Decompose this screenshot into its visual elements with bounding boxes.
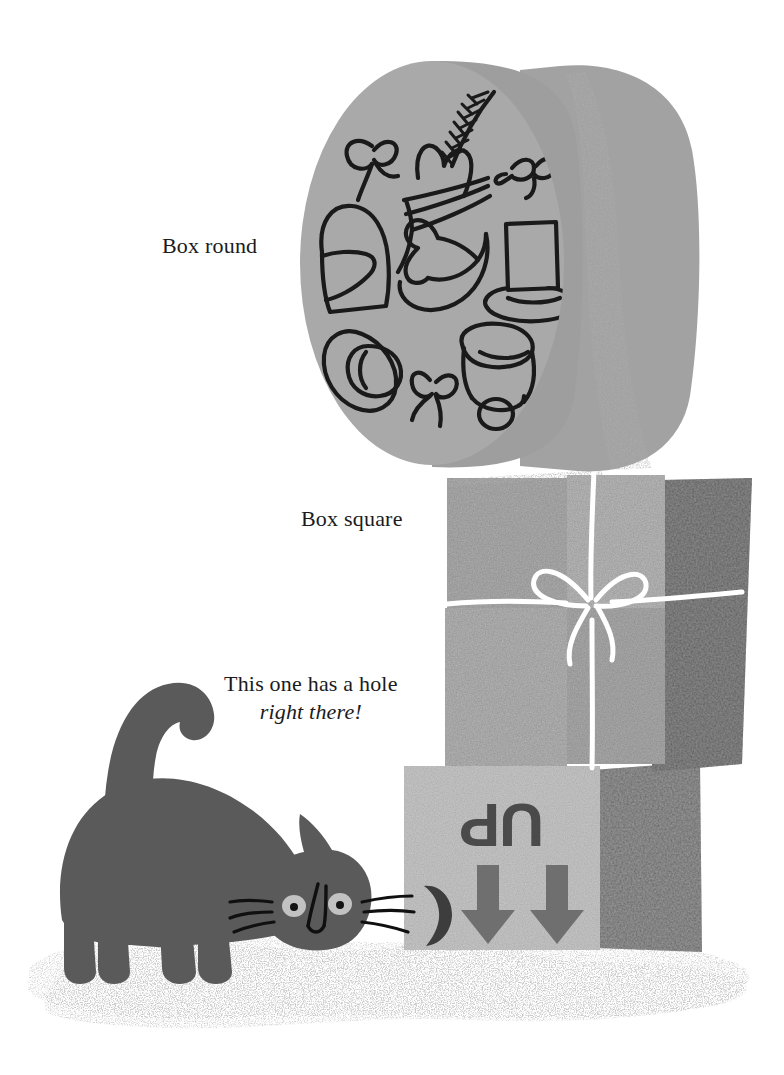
caption-hole-line2: right there! xyxy=(224,698,398,726)
caption-box-round: Box round xyxy=(162,232,257,260)
cat-eye xyxy=(282,895,306,917)
square-box-side xyxy=(652,478,752,772)
up-label: UP xyxy=(460,791,544,860)
square-box xyxy=(445,470,752,772)
round-box xyxy=(300,61,699,471)
round-box-lid xyxy=(300,61,564,465)
cat-leg xyxy=(98,914,130,984)
square-box-front xyxy=(445,475,665,766)
caption-hole: This one has a hole right there! xyxy=(224,670,398,726)
cat-leg xyxy=(160,928,196,984)
caption-hole-line1: This one has a hole xyxy=(224,671,398,696)
illustration-canvas: UP xyxy=(0,0,784,1075)
cat-eye xyxy=(328,893,352,915)
up-box-side xyxy=(592,762,702,952)
cat-leg xyxy=(64,910,96,984)
cat xyxy=(60,683,414,984)
up-box: UP xyxy=(404,762,702,952)
illustration-page: UP xyxy=(0,0,784,1075)
caption-box-square: Box square xyxy=(301,505,403,533)
cat-leg xyxy=(198,930,232,984)
